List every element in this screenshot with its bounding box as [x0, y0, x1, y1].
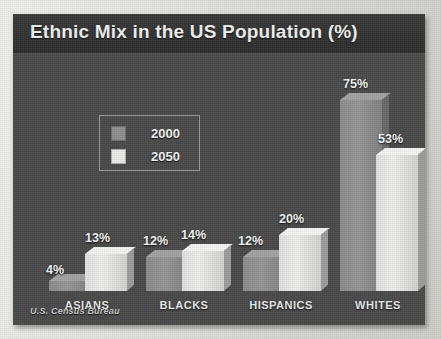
category-label-whites: WHITES	[332, 299, 424, 311]
bar-value-asians-2000: 4%	[46, 263, 64, 277]
bar-whites-2050	[376, 155, 418, 291]
bar-value-blacks-2000: 12%	[143, 234, 168, 248]
chart-title: Ethnic Mix in the US Population (%)	[30, 21, 358, 43]
bar-hispanics-2050	[279, 235, 321, 291]
bar-value-hispanics-2000: 12%	[238, 234, 263, 248]
bar-group-whites: 75% 53%	[332, 71, 424, 291]
bar-side-face	[224, 245, 231, 291]
bar-value-whites-2050: 53%	[378, 132, 403, 146]
bar-blacks-2050	[182, 251, 224, 291]
bar-group-hispanics: 12% 20%	[235, 91, 327, 291]
bar-value-asians-2050: 13%	[85, 231, 110, 245]
chart-source-note: U.S. Census Bureau	[30, 306, 120, 316]
bar-value-blacks-2050: 14%	[181, 228, 206, 242]
bar-front-face	[376, 155, 418, 291]
bar-front-face	[182, 251, 224, 291]
category-label-hispanics: HISPANICS	[235, 299, 327, 311]
bar-side-face	[418, 149, 425, 291]
bar-side-face	[321, 229, 328, 291]
bar-value-hispanics-2050: 20%	[279, 212, 304, 226]
chart-title-bar: Ethnic Mix in the US Population (%)	[13, 14, 425, 54]
category-label-blacks: BLACKS	[138, 299, 230, 311]
bar-group-asians: 4% 13%	[41, 91, 133, 291]
bar-side-face	[127, 248, 134, 291]
bar-front-face	[85, 254, 127, 291]
chart-slide-panel: Ethnic Mix in the US Population (%) 2000…	[13, 14, 425, 325]
bar-asians-2050	[85, 254, 127, 291]
bar-front-face	[279, 235, 321, 291]
bar-group-blacks: 12% 14%	[138, 91, 230, 291]
chart-plot-area: 2000 2050 4% 13% ASIANS	[13, 53, 425, 325]
bar-value-whites-2000: 75%	[343, 77, 368, 91]
